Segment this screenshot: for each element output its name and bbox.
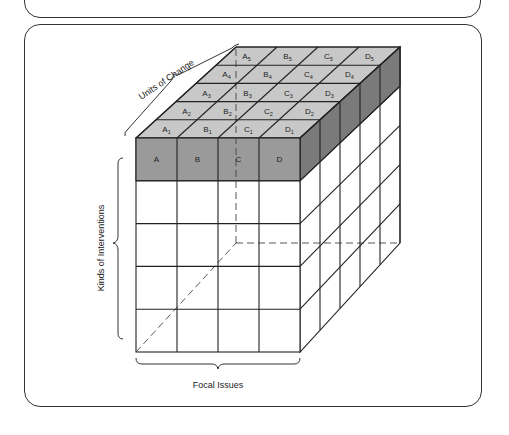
- front-cell-label: B: [195, 155, 200, 164]
- kinds-of-interventions-label: Kinds of Interventions: [96, 204, 106, 291]
- focal-issues-brace: [136, 358, 300, 369]
- cube-diagram: ABCDA1B1C1D1A2B2C2D2A3B3C3D3A4B4C4D4A5B5…: [0, 0, 509, 435]
- front-cell-label: A: [154, 155, 160, 164]
- front-cell-label: D: [277, 155, 283, 164]
- front-cell-label: C: [236, 155, 242, 164]
- kinds-of-interventions-brace: [113, 158, 123, 339]
- focal-issues-label: Focal Issues: [193, 380, 244, 390]
